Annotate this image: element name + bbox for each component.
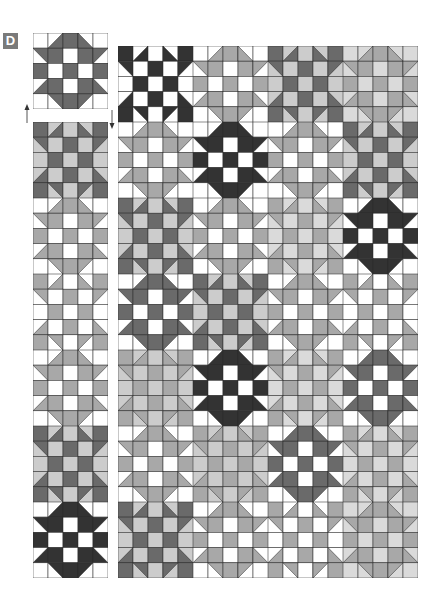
quilt-block bbox=[118, 426, 193, 502]
quilt-block bbox=[268, 274, 343, 350]
quilt-block bbox=[193, 350, 268, 426]
quilt-block bbox=[33, 502, 108, 578]
figure-label: D bbox=[3, 33, 18, 49]
quilt-block bbox=[268, 46, 343, 122]
quilt-layout bbox=[118, 46, 418, 578]
quilt-block bbox=[33, 198, 108, 274]
arrow-up-icon bbox=[23, 104, 31, 123]
quilt-block bbox=[193, 274, 268, 350]
quilt-block bbox=[343, 198, 418, 274]
quilt-block bbox=[33, 350, 108, 426]
quilt-block bbox=[118, 198, 193, 274]
quilt-block bbox=[193, 122, 268, 198]
quilt-block bbox=[118, 350, 193, 426]
single-star-block bbox=[33, 33, 108, 109]
quilt-block bbox=[343, 46, 418, 122]
quilt-block bbox=[33, 426, 108, 502]
arrow-down-icon bbox=[108, 110, 116, 129]
quilt-block bbox=[118, 274, 193, 350]
block-column-strip bbox=[33, 122, 108, 578]
quilt-block bbox=[343, 274, 418, 350]
quilt-block bbox=[343, 426, 418, 502]
quilt-block bbox=[118, 502, 193, 578]
quilt-block bbox=[343, 350, 418, 426]
quilt-block bbox=[118, 46, 193, 122]
quilt-block bbox=[193, 198, 268, 274]
quilt-block bbox=[33, 122, 108, 198]
quilt-block bbox=[343, 502, 418, 578]
quilt-block bbox=[268, 350, 343, 426]
quilt-block bbox=[33, 33, 108, 109]
quilt-block bbox=[33, 274, 108, 350]
quilt-block bbox=[193, 46, 268, 122]
quilt-block bbox=[193, 426, 268, 502]
quilt-block bbox=[118, 122, 193, 198]
quilt-block bbox=[268, 426, 343, 502]
quilt-block bbox=[343, 122, 418, 198]
quilt-block bbox=[268, 122, 343, 198]
quilt-block bbox=[268, 198, 343, 274]
quilt-block bbox=[268, 502, 343, 578]
quilt-block bbox=[193, 502, 268, 578]
